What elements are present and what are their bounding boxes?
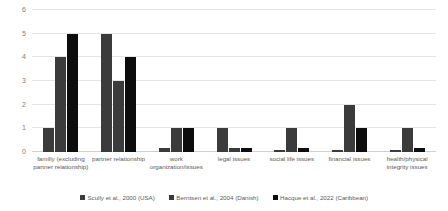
bar (171, 128, 182, 152)
legend-swatch-icon (80, 195, 85, 200)
bar-group (32, 10, 90, 152)
bar (332, 150, 343, 152)
x-axis-label: legal issues (205, 155, 263, 170)
x-axis-label: health/physical integrity issues (378, 155, 436, 170)
bar (113, 81, 124, 152)
legend-label: Hacque et al., 2022 (Caribbean) (280, 194, 368, 201)
bar-group (321, 10, 379, 152)
bar (125, 57, 136, 152)
bar (356, 128, 367, 152)
bar (402, 128, 413, 152)
x-axis-label: work organization/issues (147, 155, 205, 170)
bar-group (205, 10, 263, 152)
x-axis-label: financial issues (321, 155, 379, 170)
y-tick-label: 4 (22, 53, 26, 61)
bar-chart: 0123456 familly (excluding partner relat… (0, 0, 448, 211)
plot-area (32, 10, 436, 152)
bar (241, 148, 252, 152)
x-axis-label: partner relationship (90, 155, 148, 170)
legend-swatch-icon (273, 195, 278, 200)
bar (274, 150, 285, 152)
bar-groups (32, 10, 436, 152)
bar (390, 150, 401, 152)
bar (217, 128, 228, 152)
bar (229, 148, 240, 152)
bar (344, 105, 355, 152)
bar (101, 34, 112, 152)
legend-item[interactable]: Hacque et al., 2022 (Caribbean) (273, 194, 369, 201)
x-axis-label: familly (excluding partner relationship) (32, 155, 90, 170)
bar (55, 57, 66, 152)
bar (43, 128, 54, 152)
bar (414, 148, 425, 152)
bar (298, 148, 309, 152)
legend-item[interactable]: Scully et al., 2000 (USA) (80, 194, 155, 201)
bar-group (263, 10, 321, 152)
bar (286, 128, 297, 152)
y-tick-label: 1 (22, 124, 26, 132)
bar (183, 128, 194, 152)
x-axis-label: social life issues (263, 155, 321, 170)
legend-item[interactable]: Berntsen et al., 2004 (Danish) (169, 194, 259, 201)
bar-group (378, 10, 436, 152)
y-tick-label: 6 (22, 6, 26, 14)
y-tick-label: 0 (22, 148, 26, 156)
y-axis-ticks: 0123456 (0, 10, 30, 152)
bar-group (90, 10, 148, 152)
bar (159, 148, 170, 152)
bar-group (147, 10, 205, 152)
y-tick-label: 3 (22, 77, 26, 85)
legend-swatch-icon (169, 195, 174, 200)
y-tick-label: 2 (22, 101, 26, 109)
x-axis-category-labels: familly (excluding partner relationship)… (32, 155, 436, 170)
legend-label: Scully et al., 2000 (USA) (87, 194, 154, 201)
legend-label: Berntsen et al., 2004 (Danish) (176, 194, 258, 201)
bar (67, 34, 78, 152)
y-tick-label: 5 (22, 30, 26, 38)
chart-legend: Scully et al., 2000 (USA)Berntsen et al.… (0, 194, 448, 201)
